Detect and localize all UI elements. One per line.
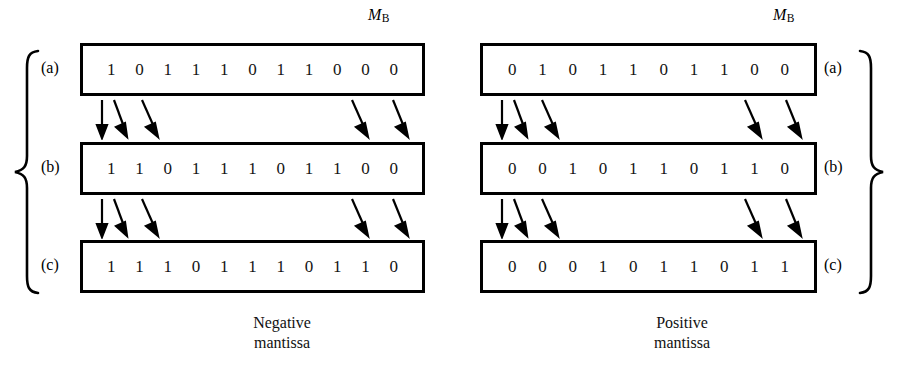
- caption-line-2: mantissa: [572, 333, 792, 353]
- bit-cell: 1: [648, 160, 678, 177]
- caption-positive-mantissa: Positive mantissa: [572, 313, 792, 353]
- bit-cell: 1: [323, 160, 351, 177]
- bit-cell: 1: [588, 61, 618, 78]
- bit-cell: 1: [679, 61, 709, 78]
- bit-list-row-b: 0 0 1 0 1 1 0 1 1 0: [483, 160, 814, 177]
- bit-cell: 1: [267, 61, 295, 78]
- bit-list-row-c: 0 0 0 1 0 1 1 0 1 1: [483, 258, 814, 275]
- bit-cell: 0: [770, 160, 800, 177]
- row-label-c: (c): [824, 256, 842, 274]
- bit-cell: 0: [380, 258, 408, 275]
- bit-cell: 1: [770, 258, 800, 275]
- shift-arrows-a-to-b: [480, 96, 817, 140]
- bit-cell: 1: [210, 61, 238, 78]
- register-name-label-mb: MB: [368, 6, 390, 24]
- bit-cell: 0: [588, 160, 618, 177]
- bit-cell: 1: [351, 258, 379, 275]
- bit-cell: 0: [380, 61, 408, 78]
- bit-cell: 1: [238, 160, 266, 177]
- bit-cell: 1: [295, 160, 323, 177]
- bit-cell: 0: [739, 61, 769, 78]
- bit-cell: 0: [380, 160, 408, 177]
- caption-line-1: Positive: [572, 313, 792, 333]
- bit-cell: 1: [709, 160, 739, 177]
- register-row-c: 1 1 1 0 1 1 1 0 1 1 0: [80, 240, 425, 293]
- bit-cell: 0: [351, 160, 379, 177]
- bit-cell: 0: [267, 160, 295, 177]
- bit-cell: 0: [238, 61, 266, 78]
- bit-cell: 1: [210, 258, 238, 275]
- bit-cell: 1: [618, 160, 648, 177]
- register-name-label-mb: MB: [773, 6, 795, 24]
- register-row-a: 1 0 1 1 1 0 1 1 0 0 0: [80, 43, 425, 96]
- caption-line-2: mantissa: [172, 333, 392, 353]
- bit-cell: 0: [497, 160, 527, 177]
- bit-cell: 0: [770, 61, 800, 78]
- bit-cell: 0: [497, 258, 527, 275]
- row-label-b: (b): [41, 158, 60, 176]
- bit-cell: 0: [154, 160, 182, 177]
- bit-cell: 1: [97, 61, 125, 78]
- bit-cell: 1: [154, 61, 182, 78]
- bit-cell: 0: [497, 61, 527, 78]
- bit-cell: 1: [295, 61, 323, 78]
- register-name-subscript: B: [787, 12, 795, 24]
- bit-cell: 1: [588, 258, 618, 275]
- row-label-a: (a): [824, 59, 842, 77]
- bit-cell: 0: [125, 61, 153, 78]
- bit-cell: 1: [154, 258, 182, 275]
- register-name-subscript: B: [382, 12, 390, 24]
- register-row-b: 0 0 1 0 1 1 0 1 1 0: [480, 142, 817, 195]
- bit-cell: 0: [323, 61, 351, 78]
- bit-list-row-a: 1 0 1 1 1 0 1 1 0 0 0: [83, 61, 422, 78]
- bit-cell: 1: [97, 258, 125, 275]
- row-label-a: (a): [41, 59, 59, 77]
- bit-cell: 1: [709, 61, 739, 78]
- bit-cell: 1: [323, 258, 351, 275]
- bit-list-row-c: 1 1 1 0 1 1 1 0 1 1 0: [83, 258, 422, 275]
- shift-arrows-b-to-c: [480, 195, 817, 239]
- bit-cell: 1: [648, 258, 678, 275]
- bit-cell: 1: [182, 61, 210, 78]
- caption-negative-mantissa: Negative mantissa: [172, 313, 392, 353]
- shift-arrows-b-to-c: [80, 195, 425, 239]
- bit-cell: 1: [125, 258, 153, 275]
- bit-cell: 0: [558, 61, 588, 78]
- bit-cell: 1: [527, 61, 557, 78]
- bit-cell: 1: [125, 160, 153, 177]
- bit-cell: 1: [739, 160, 769, 177]
- bit-cell: 1: [739, 258, 769, 275]
- bit-cell: 1: [238, 258, 266, 275]
- grouping-brace-right: [856, 48, 890, 296]
- bit-cell: 1: [618, 61, 648, 78]
- row-label-c: (c): [41, 256, 59, 274]
- register-row-a: 0 1 0 1 1 0 1 1 0 0: [480, 43, 817, 96]
- register-row-b: 1 1 0 1 1 1 0 1 1 0 0: [80, 142, 425, 195]
- bit-cell: 0: [182, 258, 210, 275]
- bit-cell: 0: [351, 61, 379, 78]
- bit-cell: 1: [210, 160, 238, 177]
- bit-cell: 0: [618, 258, 648, 275]
- bit-cell: 0: [709, 258, 739, 275]
- register-row-c: 0 0 0 1 0 1 1 0 1 1: [480, 240, 817, 293]
- bit-cell: 1: [267, 258, 295, 275]
- bit-cell: 0: [648, 61, 678, 78]
- caption-line-1: Negative: [172, 313, 392, 333]
- bit-cell: 1: [182, 160, 210, 177]
- register-name-base: M: [368, 6, 381, 23]
- bit-cell: 1: [558, 160, 588, 177]
- bit-cell: 1: [679, 258, 709, 275]
- shift-register-figure: MB (a) 1 0 1 1 1 0 1 1 0 0 0: [0, 0, 903, 373]
- shift-arrows-a-to-b: [80, 96, 425, 140]
- bit-cell: 0: [679, 160, 709, 177]
- bit-cell: 1: [97, 160, 125, 177]
- bit-cell: 0: [527, 258, 557, 275]
- row-label-b: (b): [824, 158, 843, 176]
- bit-list-row-a: 0 1 0 1 1 0 1 1 0 0: [483, 61, 814, 78]
- bit-list-row-b: 1 1 0 1 1 1 0 1 1 0 0: [83, 160, 422, 177]
- bit-cell: 0: [558, 258, 588, 275]
- bit-cell: 0: [295, 258, 323, 275]
- bit-cell: 0: [527, 160, 557, 177]
- register-name-base: M: [773, 6, 786, 23]
